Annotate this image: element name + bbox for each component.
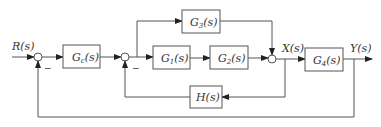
svg-text:G1(s): G1(s) — [161, 52, 189, 66]
block-g3: G3(s) — [182, 10, 220, 33]
block-g2: G2(s) — [210, 46, 248, 69]
block-h: H(s) — [190, 86, 222, 108]
sum1-minus-sign: − — [44, 63, 52, 73]
input-signal-label: R(s) — [11, 40, 35, 53]
svg-text:H(s): H(s) — [195, 91, 220, 104]
svg-text:G2(s): G2(s) — [218, 52, 246, 66]
summing-junction-2 — [121, 53, 129, 61]
sum2-minus-sign: − — [132, 63, 140, 73]
block-g4: G4(s) — [305, 48, 343, 71]
block-gc: Gc(s) — [63, 45, 100, 68]
svg-text:G3(s): G3(s) — [190, 16, 218, 30]
svg-text:G4(s): G4(s) — [313, 54, 341, 68]
intermediate-signal-label: X(s) — [281, 42, 304, 55]
svg-text:Gc(s): Gc(s) — [72, 51, 99, 65]
block-g1: G1(s) — [153, 46, 190, 69]
summing-junction-1 — [34, 53, 42, 61]
summing-junction-3 — [268, 55, 276, 63]
block-diagram: R(s) − Gc(s) − G3(s) G1(s) G2(s) X(s) — [0, 0, 381, 127]
output-signal-label: Y(s) — [350, 42, 372, 55]
